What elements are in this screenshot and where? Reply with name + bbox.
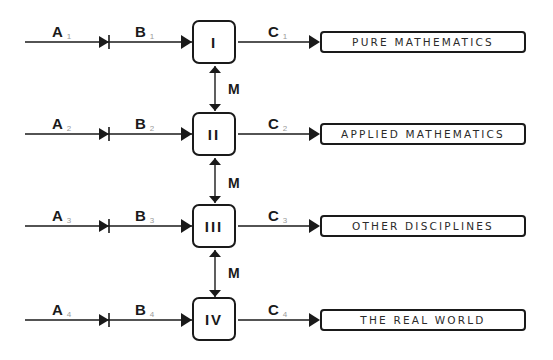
label-a3: A3 xyxy=(52,208,71,223)
output-box-the-real-world: THE REAL WORLD xyxy=(320,309,526,331)
output-box-pure-mathematics: PURE MATHEMATICS xyxy=(320,31,526,53)
label-c2: C2 xyxy=(268,116,287,131)
label-a4: A4 xyxy=(52,302,71,317)
label-b2: B2 xyxy=(135,116,154,131)
label-a1: A1 xyxy=(52,24,71,39)
link-label-m-3: M xyxy=(228,265,240,281)
label-b3: B3 xyxy=(135,208,154,223)
label-c1: C1 xyxy=(268,24,287,39)
output-box-applied-mathematics: APPLIED MATHEMATICS xyxy=(320,123,526,145)
stage-box-2: II xyxy=(192,112,236,156)
output-box-other-disciplines: OTHER DISCIPLINES xyxy=(320,215,526,237)
label-b4: B4 xyxy=(135,302,154,317)
link-label-m-2: M xyxy=(228,175,240,191)
stage-box-3: III xyxy=(192,204,236,248)
stage-box-4: IV xyxy=(192,297,236,341)
label-c3: C3 xyxy=(268,208,287,223)
stage-box-1: I xyxy=(192,20,236,64)
label-a2: A2 xyxy=(52,116,71,131)
label-c4: C4 xyxy=(268,302,287,317)
label-b1: B1 xyxy=(135,24,154,39)
link-label-m-1: M xyxy=(228,81,240,97)
